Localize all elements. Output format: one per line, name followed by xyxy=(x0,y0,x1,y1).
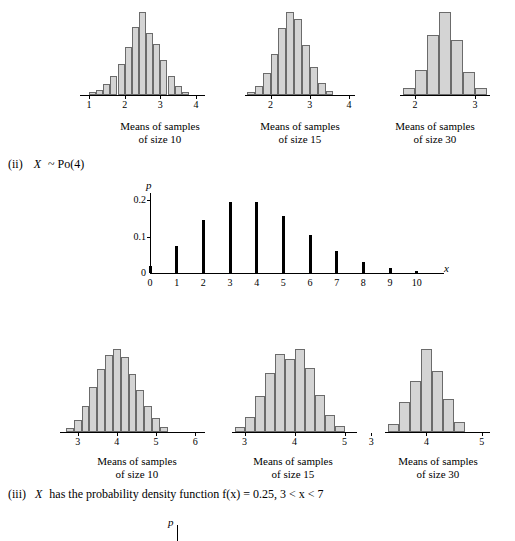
x-axis-tick-label: 4 xyxy=(416,436,436,447)
section-iii-marker: (iii) xyxy=(8,487,26,501)
axis-label-p: p xyxy=(168,516,174,528)
x-axis-tick-label: 8 xyxy=(353,277,373,288)
histogram-bar xyxy=(160,60,167,95)
x-axis-tick-label: 2 xyxy=(405,99,425,110)
y-axis-line xyxy=(150,193,151,273)
chart-top-hist-15: 234 xyxy=(245,8,355,113)
histogram-bar xyxy=(97,369,105,432)
histogram-bar xyxy=(305,368,315,432)
histogram-bar xyxy=(443,399,454,432)
x-axis-tick-label: 6 xyxy=(185,436,205,447)
caption-line-1: Means of samples xyxy=(110,120,210,133)
histogram-bar xyxy=(399,402,410,432)
x-axis-tick-label: 5 xyxy=(146,436,166,447)
x-axis-tick-label: 0 xyxy=(140,277,160,288)
x-axis-line xyxy=(400,95,490,96)
caption-line-2: of size 30 xyxy=(383,468,493,481)
histogram-bar xyxy=(121,357,129,432)
caption-line-2: of size 10 xyxy=(82,468,192,481)
histogram-bar xyxy=(89,387,97,432)
histogram-bar xyxy=(175,86,182,95)
histogram-bar xyxy=(136,390,144,432)
histogram-bar xyxy=(168,76,175,95)
x-axis-line xyxy=(245,95,355,96)
x-axis-tick-label: 5 xyxy=(335,436,355,447)
histogram-bar xyxy=(263,73,271,95)
histogram-bar xyxy=(410,381,421,432)
y-axis-tick-label: 0.1 xyxy=(122,231,146,242)
histogram-bar xyxy=(302,45,310,95)
caption-line-1: Means of samples xyxy=(383,455,493,468)
x-axis-tick-label: 7 xyxy=(327,277,347,288)
histogram-bar xyxy=(415,70,427,95)
histogram-bar xyxy=(295,349,305,432)
histogram-bar xyxy=(129,374,137,432)
histogram-bar xyxy=(427,35,439,95)
caption-line-1: Means of samples xyxy=(385,120,485,133)
histogram-bar xyxy=(125,47,132,95)
histogram-bar xyxy=(315,395,325,432)
section-ii-marker: (ii) xyxy=(8,157,23,171)
histogram-bar xyxy=(451,40,463,95)
probability-spike xyxy=(255,202,258,273)
histogram-bar xyxy=(463,72,475,95)
y-axis-tick-label: 0.2 xyxy=(122,194,146,205)
histogram-bar xyxy=(286,12,294,95)
probability-spike xyxy=(335,251,338,273)
caption-top-10: Means of samples of size 10 xyxy=(110,120,210,146)
histogram-bar xyxy=(475,88,487,95)
caption-line-2: of size 15 xyxy=(250,133,350,146)
caption-line-1: Means of samples xyxy=(250,120,350,133)
x-axis-tick-label: 3 xyxy=(68,436,88,447)
histogram-bar xyxy=(245,417,255,432)
caption-line-1: Means of samples xyxy=(238,455,348,468)
histogram-bar xyxy=(310,67,318,95)
histogram-bar xyxy=(275,354,285,432)
section-iii: (iii) X has the probability density func… xyxy=(8,487,324,502)
x-axis-tick-label: 3 xyxy=(465,99,485,110)
x-axis-tick-label: 3 xyxy=(220,277,240,288)
x-axis-line xyxy=(150,273,444,274)
histogram-bar xyxy=(110,76,117,95)
x-axis-tick-label: 4 xyxy=(339,99,359,110)
x-axis-tick-label: 3 xyxy=(235,436,255,447)
x-axis-tick-label: 3 xyxy=(150,99,170,110)
probability-spike xyxy=(175,246,178,273)
histogram-bar xyxy=(132,27,139,95)
y-axis-tick xyxy=(147,200,150,201)
caption-line-2: of size 10 xyxy=(110,133,210,146)
x-axis-tick-label: 1 xyxy=(167,277,187,288)
caption-line-1: Means of samples xyxy=(82,455,192,468)
x-axis-tick-label: 2 xyxy=(115,99,135,110)
histogram-bar xyxy=(325,415,335,432)
x-axis-tick-label: 10 xyxy=(407,277,427,288)
caption-bottom-15: Means of samples of size 15 xyxy=(238,455,348,481)
probability-spike xyxy=(389,268,392,273)
caption-bottom-10: Means of samples of size 10 xyxy=(82,455,192,481)
axis-vertical xyxy=(177,525,178,541)
histogram-bar xyxy=(403,88,415,95)
histogram-bar xyxy=(152,418,160,432)
section-ii-text: ~ Po(4) xyxy=(48,157,84,171)
histogram-bar xyxy=(265,373,275,432)
histogram-bar xyxy=(105,355,113,432)
histogram-bar xyxy=(388,424,399,432)
caption-line-2: of size 30 xyxy=(385,133,485,146)
y-axis-tick xyxy=(147,237,150,238)
x-axis-tick-label: 6 xyxy=(300,277,320,288)
histogram-bar xyxy=(118,64,125,95)
probability-spike xyxy=(309,235,312,273)
probability-spike xyxy=(149,266,152,273)
histogram-bar xyxy=(255,396,265,432)
x-axis-tick-label: 5 xyxy=(273,277,293,288)
x-axis-tick-label: 3 xyxy=(361,436,381,447)
histogram-bar xyxy=(113,349,121,432)
probability-spike xyxy=(202,220,205,273)
histogram-bar xyxy=(318,83,326,95)
histogram-bar xyxy=(285,359,295,432)
probability-spike xyxy=(282,216,285,273)
section-iii-text: has the probability density function f(x… xyxy=(49,487,323,501)
x-axis-tick-label: 4 xyxy=(285,436,305,447)
x-axis-line xyxy=(385,432,490,433)
axis-label-x: x xyxy=(444,262,449,274)
